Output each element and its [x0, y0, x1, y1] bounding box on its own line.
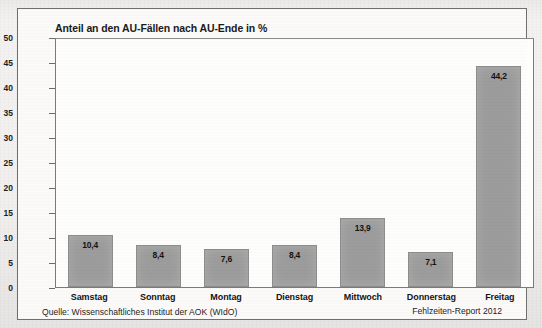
bar-slot: 44,2 [465, 39, 533, 287]
bar: 44,2 [476, 66, 521, 287]
y-axis-tick-label: 45 [0, 59, 13, 67]
bar-value-label: 8,4 [137, 250, 180, 260]
bar-slot: 8,4 [124, 39, 192, 287]
bar-value-label: 8,4 [273, 250, 316, 260]
bar: 10,4 [68, 235, 113, 287]
y-axis-tick-label: 30 [0, 134, 13, 142]
y-axis-tick-label: 25 [0, 159, 13, 167]
bar-value-label: 44,2 [477, 71, 520, 81]
y-axis-tick-label: 50 [0, 34, 13, 42]
bar-value-label: 7,6 [205, 254, 248, 264]
y-axis-tick-label: 5 [0, 259, 13, 267]
y-axis-tick-label: 40 [0, 84, 13, 92]
bar-value-label: 13,9 [341, 223, 384, 233]
bar-value-label: 7,1 [409, 257, 452, 267]
bar: 7,1 [408, 252, 453, 288]
bar-slot: 10,4 [56, 39, 124, 287]
bar-series: 10,48,47,68,413,97,144,2 [56, 39, 533, 287]
y-axis-tick-label: 35 [0, 109, 13, 117]
report-note: Fehlzeiten-Report 2012 [412, 306, 502, 316]
bar: 8,4 [136, 245, 181, 287]
y-axis-tick-mark [49, 288, 55, 289]
bar-value-label: 10,4 [69, 240, 112, 250]
y-axis-tick-label: 20 [0, 184, 13, 192]
bar: 8,4 [272, 245, 317, 287]
bar-slot: 13,9 [329, 39, 397, 287]
bar-slot: 7,6 [192, 39, 260, 287]
y-axis-tick-label: 0 [0, 284, 13, 292]
bar: 7,6 [204, 249, 249, 287]
bar-slot: 7,1 [397, 39, 465, 287]
source-note: Quelle: Wissenschaftliches Institut der … [42, 307, 237, 317]
bar: 13,9 [340, 218, 385, 288]
y-axis-tick-label: 10 [0, 234, 13, 242]
chart-title: Anteil an den AU-Fällen nach AU-Ende in … [55, 22, 267, 34]
figure-frame: Anteil an den AU-Fällen nach AU-Ende in … [17, 8, 527, 320]
y-axis-tick-label: 15 [0, 209, 13, 217]
plot-area: 10,48,47,68,413,97,144,2 [55, 38, 534, 288]
y-axis: 50454035302520151050 [18, 9, 55, 328]
bar-slot: 8,4 [260, 39, 328, 287]
x-axis-category-label: Freitag [455, 292, 542, 302]
